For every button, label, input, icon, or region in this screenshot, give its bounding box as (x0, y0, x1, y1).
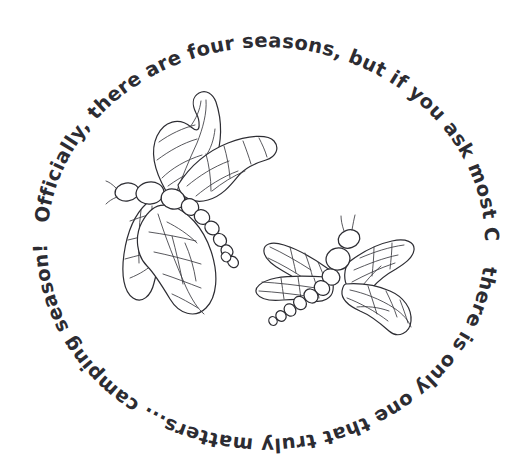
quote-arc-top: Officially, there are four seasons, but … (0, 0, 503, 242)
quote-arc-top-textpath: Officially, there are four seasons, but … (0, 0, 503, 242)
dragonfly2-wing-lower-right (342, 284, 411, 335)
dragonfly-lower-right (256, 215, 414, 335)
dragonfly-illustration: Officially, there are four seasons, but … (0, 0, 532, 456)
quote-arc-bottom: there is only one that truly matters... … (29, 243, 501, 456)
quote-arc-bottom-textpath: there is only one that truly matters... … (29, 243, 501, 456)
dragonfly-upper-left (106, 92, 277, 314)
artwork-canvas: Officially, there are four seasons, but … (0, 0, 532, 456)
